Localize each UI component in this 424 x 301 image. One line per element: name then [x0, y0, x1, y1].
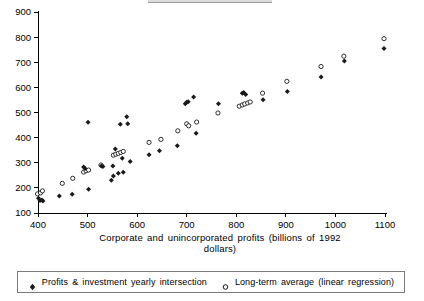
chart-figure: 100200300400500600700800900 400500600700…	[0, 0, 424, 301]
data-point	[60, 181, 64, 185]
x-axis-title-line-1: Corporate and unincorporated profits (bi…	[34, 232, 406, 243]
data-point	[70, 192, 75, 197]
x-tick-label: 1000	[325, 219, 346, 230]
plot-area: 100200300400500600700800900 400500600700…	[0, 0, 424, 258]
data-point	[113, 146, 118, 151]
x-tick-label: 1100	[375, 219, 395, 230]
y-tick-label: 100	[15, 207, 31, 218]
data-point	[121, 149, 125, 153]
data-point	[159, 137, 163, 141]
data-point	[124, 114, 129, 119]
series-long-term-average-points	[35, 37, 386, 196]
data-point	[157, 148, 162, 153]
data-point	[342, 58, 347, 63]
filled-diamond-icon	[28, 277, 37, 286]
x-tick-label: 700	[179, 219, 195, 230]
data-point	[285, 79, 289, 83]
legend-label-long-term-average: Long-term average (linear regression)	[235, 277, 394, 287]
y-tick-label: 400	[15, 132, 31, 143]
data-point	[382, 46, 387, 51]
data-point	[147, 140, 151, 144]
data-point	[128, 159, 133, 164]
scatter-plot-svg: 100200300400500600700800900 400500600700…	[0, 0, 424, 258]
data-point	[176, 129, 180, 133]
data-point	[121, 170, 126, 175]
data-point	[191, 94, 196, 99]
data-point	[110, 164, 115, 169]
data-point	[216, 111, 220, 115]
data-point	[195, 120, 199, 124]
data-point	[319, 64, 323, 68]
data-point	[57, 193, 62, 198]
data-point	[116, 171, 121, 176]
y-tick-label: 700	[15, 57, 31, 68]
y-axis: 100200300400500600700800900	[15, 6, 38, 218]
x-axis-title: Corporate and unincorporated profits (bi…	[34, 232, 406, 254]
x-tick-label: 900	[278, 219, 294, 230]
chart-legend: Profits & investment yearly intersection…	[17, 271, 405, 293]
data-point	[118, 122, 123, 127]
x-tick-label: 600	[129, 219, 145, 230]
y-tick-label: 600	[15, 82, 31, 93]
data-point	[86, 187, 91, 192]
data-point	[71, 176, 75, 180]
data-point	[120, 156, 125, 161]
data-point	[109, 178, 114, 183]
x-axis: 40050060070080090010001100	[30, 213, 395, 230]
x-tick-label: 800	[228, 219, 244, 230]
legend-label-profits-investment: Profits & investment yearly intersection	[42, 277, 207, 287]
data-point	[40, 189, 44, 193]
data-point	[125, 121, 130, 126]
x-tick-label: 500	[80, 219, 96, 230]
data-point	[175, 143, 180, 148]
y-tick-label: 300	[15, 157, 31, 168]
y-tick-label: 900	[15, 6, 31, 17]
data-point	[342, 54, 346, 58]
open-circle-icon	[221, 277, 230, 286]
data-point	[261, 97, 266, 102]
y-tick-label: 800	[15, 32, 31, 43]
data-point	[285, 89, 290, 94]
data-point	[147, 152, 152, 157]
x-axis-title-line-2: dollars)	[34, 243, 406, 254]
data-point	[187, 124, 191, 128]
data-point	[216, 101, 221, 106]
legend-item-profits-investment: Profits & investment yearly intersection	[28, 277, 207, 287]
series-profits-investment-points	[36, 46, 387, 204]
data-point	[248, 100, 252, 104]
data-point	[111, 174, 116, 179]
y-tick-label: 500	[15, 107, 31, 118]
data-point	[260, 91, 264, 95]
legend-item-long-term-average: Long-term average (linear regression)	[221, 277, 394, 287]
data-point	[194, 131, 199, 136]
data-point	[86, 120, 91, 125]
data-point	[319, 75, 324, 80]
data-point	[382, 37, 386, 41]
y-tick-label: 200	[15, 182, 31, 193]
x-tick-label: 400	[30, 219, 46, 230]
